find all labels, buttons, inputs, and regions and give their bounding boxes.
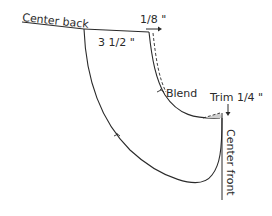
blend-label: Blend bbox=[166, 87, 197, 100]
center-front-label: Center front bbox=[224, 129, 237, 196]
center-back-label: Center back bbox=[22, 11, 90, 31]
trim-arrow-head bbox=[226, 112, 231, 116]
outer-curve bbox=[84, 29, 222, 182]
notch-inner-tick bbox=[157, 90, 161, 92]
trim-shade bbox=[205, 113, 222, 118]
measure-top-label: 3 1/2 " bbox=[98, 36, 135, 49]
top-edge bbox=[84, 29, 149, 32]
extend-label: 1/8 " bbox=[140, 13, 166, 26]
extend-arrow-head bbox=[158, 27, 162, 32]
collar-pattern-diagram: Center back 3 1/2 " 1/8 " Blend Trim 1/4… bbox=[0, 0, 272, 216]
trim-label: Trim 1/4 " bbox=[209, 91, 263, 104]
